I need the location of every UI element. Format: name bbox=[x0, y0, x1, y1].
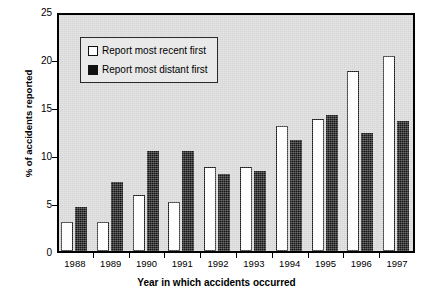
bar-group bbox=[381, 15, 415, 251]
bar-distant bbox=[218, 174, 230, 251]
bar-distant bbox=[182, 151, 194, 251]
x-axis-title: Year in which accidents occurred bbox=[0, 277, 433, 288]
y-axis-tick-mark bbox=[52, 157, 58, 158]
y-axis-tick-label: 10 bbox=[26, 152, 52, 162]
bar-group bbox=[345, 15, 381, 251]
bar-recent bbox=[97, 222, 109, 251]
y-axis-tick-mark bbox=[52, 205, 58, 206]
legend-label-distant: Report most distant first bbox=[102, 65, 208, 75]
legend-label-recent: Report most recent first bbox=[102, 46, 206, 56]
legend-item-recent: Report most recent first bbox=[88, 43, 208, 58]
y-axis-tick-label: 5 bbox=[26, 200, 52, 210]
bar-recent bbox=[240, 167, 252, 251]
bar-distant bbox=[326, 115, 338, 251]
bar-distant bbox=[361, 133, 373, 251]
bar-distant bbox=[147, 151, 159, 251]
bar-group bbox=[310, 15, 346, 251]
bar-recent bbox=[204, 167, 216, 251]
bar-recent bbox=[168, 202, 180, 251]
bar-recent bbox=[61, 222, 73, 251]
bar-recent bbox=[276, 126, 288, 251]
legend-item-distant: Report most distant first bbox=[88, 62, 208, 77]
filled-square-icon bbox=[88, 65, 98, 75]
hollow-square-icon bbox=[88, 46, 98, 56]
bar-distant bbox=[290, 140, 302, 251]
y-axis-tick-labels: 0510152025 bbox=[22, 0, 52, 298]
y-axis-tick-label: 20 bbox=[26, 56, 52, 66]
bar-distant bbox=[111, 182, 123, 251]
bar-chart: % of accidents reported 0510152025 Repor… bbox=[0, 0, 433, 298]
bar-recent bbox=[383, 56, 395, 251]
bar-group bbox=[274, 15, 310, 251]
legend: Report most recent first Report most dis… bbox=[80, 37, 218, 83]
y-axis-tick-mark bbox=[52, 61, 58, 62]
x-axis-tick-label: 1997 bbox=[375, 258, 419, 269]
y-axis-tick-label: 25 bbox=[26, 8, 52, 18]
bar-distant bbox=[397, 121, 409, 251]
y-axis-tick-mark bbox=[52, 109, 58, 110]
bar-distant bbox=[75, 207, 87, 251]
bar-recent bbox=[133, 195, 145, 251]
y-axis-tick-label: 15 bbox=[26, 104, 52, 114]
bar-recent bbox=[312, 119, 324, 251]
bar-group bbox=[238, 15, 274, 251]
bar-distant bbox=[254, 171, 266, 251]
y-axis-tick-label: 0 bbox=[26, 248, 52, 258]
bar-recent bbox=[347, 71, 359, 251]
